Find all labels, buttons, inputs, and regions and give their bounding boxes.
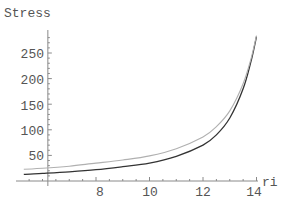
y-tick-label-200: 200 xyxy=(21,73,44,88)
x-axis-title: ri xyxy=(262,175,278,190)
y-axis-title: Stress xyxy=(4,6,51,21)
dark-stress-curve xyxy=(24,37,257,175)
series-group xyxy=(24,36,257,175)
axes xyxy=(16,30,258,186)
y-tick-label-150: 150 xyxy=(21,99,44,114)
x-tick-label-10: 10 xyxy=(142,185,158,200)
y-tick-label-250: 250 xyxy=(21,47,44,62)
x-tick-label-12: 12 xyxy=(195,185,211,200)
x-tick-label-14: 14 xyxy=(246,185,262,200)
y-tick-label-100: 100 xyxy=(21,124,44,139)
stress-chart: Stress ri 250 200 150 100 50 8 10 12 14 xyxy=(0,0,296,205)
light-stress-curve xyxy=(24,36,257,170)
y-tick-label-50: 50 xyxy=(28,149,44,164)
x-tick-label-8: 8 xyxy=(96,185,104,200)
